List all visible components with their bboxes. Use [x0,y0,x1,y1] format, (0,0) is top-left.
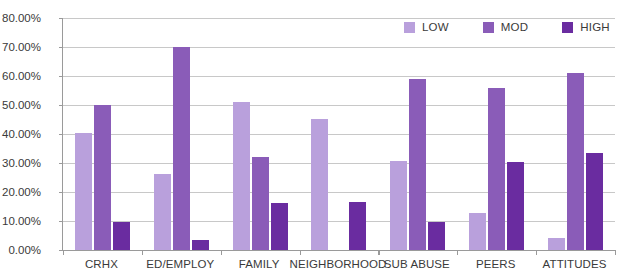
legend-label: HIGH [580,21,610,33]
x-axis-tick-mark [536,250,537,255]
bar-low[interactable] [548,238,565,250]
legend-item-high[interactable]: HIGH [562,21,610,33]
bar-low[interactable] [75,133,92,250]
legend-label: LOW [422,21,449,33]
bar-group [536,18,615,250]
legend-label: MOD [501,21,528,33]
x-axis-labels: CRHXED/EMPLOYFAMILYNEIGHBORHOODSUB ABUSE… [62,258,614,278]
x-axis-label: ATTITUDES [543,258,607,270]
x-axis-tick-mark [221,250,222,255]
bar-group [378,18,457,250]
bar-low[interactable] [233,102,250,250]
bar-mod[interactable] [567,73,584,250]
bar-mod[interactable] [409,79,426,250]
bar-group [300,18,379,250]
legend-swatch-mod-icon [483,22,494,33]
bar-high[interactable] [586,153,603,250]
x-axis-tick-mark [300,250,301,255]
x-axis-label: NEIGHBORHOOD [289,258,386,270]
y-axis-tick-label: 30.00% [0,157,41,169]
legend-item-low[interactable]: LOW [404,21,449,33]
bar-low[interactable] [390,161,407,250]
bar-mod[interactable] [488,88,505,250]
bar-low[interactable] [154,174,171,250]
bar-group [457,18,536,250]
y-axis-tick-label: 60.00% [0,70,41,82]
bar-low[interactable] [469,213,486,250]
y-axis-tick-label: 40.00% [0,128,41,140]
bar-high[interactable] [192,240,209,250]
x-axis-label: SUB ABUSE [384,258,450,270]
legend-item-mod[interactable]: MOD [483,21,528,33]
x-axis-tick-mark [378,250,379,255]
y-axis-tick-label: 10.00% [0,215,41,227]
legend-swatch-high-icon [562,22,573,33]
bar-mod[interactable] [173,47,190,250]
y-axis-tick-label: 80.00% [0,12,41,24]
chart-legend: LOWMODHIGH [404,21,610,33]
x-axis-label: CRHX [85,258,118,270]
bar-mod[interactable] [252,157,269,250]
y-axis-tick-label: 0.00% [0,244,41,256]
bar-low[interactable] [311,119,328,250]
x-axis-label: PEERS [476,258,516,270]
bar-group [142,18,221,250]
bar-high[interactable] [113,222,130,250]
bar-high[interactable] [271,203,288,250]
x-axis-tick-mark [615,250,616,255]
x-axis-label: FAMILY [239,258,280,270]
y-axis-tick-label: 20.00% [0,186,41,198]
bar-group [63,18,142,250]
x-axis-tick-mark [142,250,143,255]
y-axis-tick-label: 70.00% [0,41,41,53]
x-axis-tick-mark [457,250,458,255]
x-axis-label: ED/EMPLOY [146,258,214,270]
bar-chart: LOWMODHIGH 0.00%10.00%20.00%30.00%40.00%… [0,0,626,280]
plot-area: 0.00%10.00%20.00%30.00%40.00%50.00%60.00… [62,18,615,251]
legend-swatch-low-icon [404,22,415,33]
bar-high[interactable] [507,162,524,250]
bar-group [221,18,300,250]
bar-high[interactable] [428,222,445,250]
bar-high[interactable] [349,202,366,250]
bar-mod[interactable] [94,105,111,250]
x-axis-tick-mark [63,250,64,255]
y-axis-tick-label: 50.00% [0,99,41,111]
